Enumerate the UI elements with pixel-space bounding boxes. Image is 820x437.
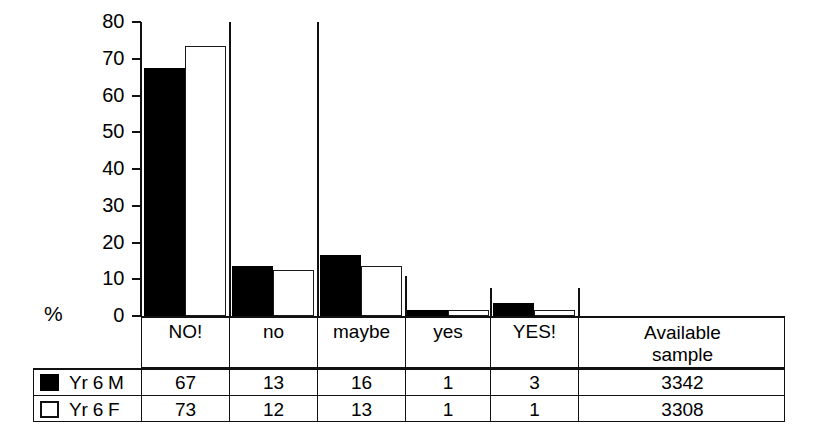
table-value-cell: 67 — [142, 370, 230, 395]
y-axis-tick-label: 10 — [80, 268, 124, 288]
bar-f-no — [273, 270, 314, 316]
table-value-cell: 13 — [318, 396, 406, 422]
y-axis-tick — [132, 95, 141, 97]
y-axis-tick — [132, 131, 141, 133]
legend-cell: Yr 6 F — [34, 396, 142, 422]
y-axis-tick-label: 20 — [80, 232, 124, 252]
table-value-cell: 1 — [406, 370, 491, 395]
bar-group — [490, 22, 578, 316]
y-axis-tick-label: 80 — [80, 11, 124, 31]
y-axis-tick — [132, 242, 141, 244]
category-header-available-sample: Availablesample — [579, 318, 786, 367]
table-value-cell: 73 — [142, 396, 230, 422]
y-axis-tick — [132, 58, 141, 60]
y-axis-tick — [132, 205, 141, 207]
y-axis-tick — [132, 278, 141, 280]
table-value-cell: 13 — [230, 370, 318, 395]
table-value-cell: 12 — [230, 396, 318, 422]
category-header-row: NO!nomaybeyesYES!Availablesample — [141, 316, 785, 368]
data-table: Yr 6 M671316133342Yr 6 F731213113308 — [33, 368, 785, 422]
category-separator — [229, 22, 231, 316]
table-sample-cell: 3308 — [579, 396, 786, 422]
y-axis-tick-label: 30 — [80, 195, 124, 215]
legend-cell: Yr 6 M — [34, 370, 142, 395]
table-value-cell: 3 — [491, 370, 579, 395]
plot-area — [141, 22, 785, 316]
y-axis-tick-label: 60 — [80, 85, 124, 105]
category-header-maybe: maybe — [318, 318, 406, 367]
y-axis-tick-label: 50 — [80, 121, 124, 141]
bar-m-yes — [493, 303, 534, 316]
y-axis-tick-label: 0 — [80, 305, 124, 325]
bar-m-no — [144, 68, 185, 316]
category-header-yes: YES! — [491, 318, 579, 367]
bar-group — [317, 22, 405, 316]
bar-m-no — [232, 266, 273, 316]
y-axis-tick — [132, 168, 141, 170]
bar-chart-figure: % 01020304050607080 NO!nomaybeyesYES!Ava… — [0, 0, 820, 437]
table-value-cell: 1 — [491, 396, 579, 422]
category-header-no: NO! — [142, 318, 230, 367]
category-header-no: no — [230, 318, 318, 367]
category-separator — [578, 288, 580, 316]
table-row: Yr 6 M671316133342 — [34, 370, 784, 396]
table-row: Yr 6 F731213113308 — [34, 396, 784, 422]
y-axis-tick — [132, 315, 141, 317]
y-axis-unit-label: % — [44, 303, 63, 324]
bar-f-maybe — [361, 266, 402, 316]
category-separator — [405, 276, 407, 316]
bar-group — [229, 22, 317, 316]
bar-group — [405, 22, 490, 316]
bar-m-maybe — [320, 255, 361, 316]
table-sample-cell: 3342 — [579, 370, 786, 395]
legend-series-label: Yr 6 M — [69, 373, 124, 392]
bar-f-no — [185, 46, 226, 316]
category-separator — [490, 288, 492, 316]
category-header-yes: yes — [406, 318, 491, 367]
table-value-cell: 16 — [318, 370, 406, 395]
outline-square-icon — [40, 401, 59, 418]
filled-square-icon — [40, 374, 59, 391]
y-axis-tick — [132, 21, 141, 23]
bar-group — [141, 22, 229, 316]
y-axis-tick-label: 40 — [80, 158, 124, 178]
category-separator — [317, 22, 319, 316]
table-value-cell: 1 — [406, 396, 491, 422]
legend-series-label: Yr 6 F — [69, 400, 120, 419]
y-axis-tick-label: 70 — [80, 48, 124, 68]
